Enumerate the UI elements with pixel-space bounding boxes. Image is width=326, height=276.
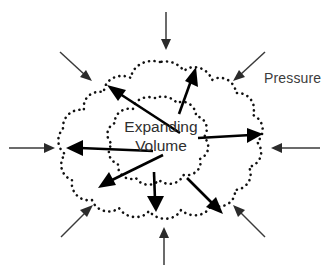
pressure-label: Pressure <box>264 70 321 86</box>
expanding-volume-label-line2: Volume <box>113 136 209 155</box>
expansion-arrow-down <box>147 172 164 212</box>
expansion-arrow-up <box>179 67 198 114</box>
pressure-arrow-east <box>271 143 320 153</box>
expanding-volume-label: Expanding Volume <box>113 117 209 155</box>
pressure-arrow-southeast <box>233 205 265 237</box>
pressure-arrow-northwest <box>60 52 92 81</box>
pressure-arrow-west <box>9 143 55 153</box>
expanding-volume-diagram: Pressure Expanding Volume <box>0 0 326 276</box>
expansion-arrow-down-right <box>187 178 223 214</box>
pressure-arrow-northeast <box>233 52 265 81</box>
pressure-arrow-north <box>161 12 171 50</box>
pressure-arrow-southwest <box>61 205 93 237</box>
expanding-volume-label-line1: Expanding <box>113 117 209 136</box>
pressure-arrow-south <box>159 227 169 265</box>
